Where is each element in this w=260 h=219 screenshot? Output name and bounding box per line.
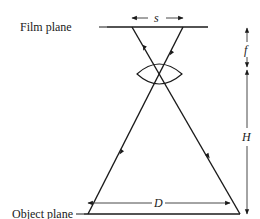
lens-optics-diagram: Film plane s Object plane D f H bbox=[0, 0, 260, 219]
object-plane-label: Object plane bbox=[12, 207, 73, 219]
f-dimension: f bbox=[244, 28, 249, 67]
f-label: f bbox=[244, 43, 249, 57]
light-rays bbox=[88, 27, 240, 214]
s-label: s bbox=[154, 11, 159, 25]
film-plane-label: Film plane bbox=[20, 20, 72, 34]
ray-right bbox=[132, 27, 240, 214]
d-dimension: D bbox=[88, 196, 230, 210]
h-label: H bbox=[241, 130, 252, 144]
ray-left bbox=[88, 27, 183, 214]
h-dimension: H bbox=[241, 70, 252, 214]
d-label: D bbox=[153, 196, 163, 210]
s-dimension: s bbox=[132, 11, 183, 25]
